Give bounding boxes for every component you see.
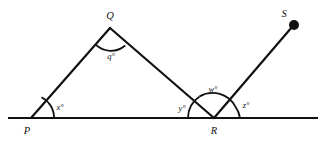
angle-label-y: y° (177, 103, 186, 113)
point-label-r: R (210, 125, 218, 136)
point-marker-s (289, 20, 299, 30)
angle-arc-w (200, 93, 236, 107)
geometry-figure: P Q R S x° q° y° w° z° (0, 0, 325, 151)
angle-arc-z (236, 107, 241, 118)
geometry-canvas: P Q R S x° q° y° w° z° (0, 0, 325, 151)
point-label-p: P (23, 125, 31, 136)
angle-arc-q (96, 45, 126, 51)
segment-pq (31, 28, 110, 118)
angle-label-q: q° (107, 51, 115, 61)
segment-rs (214, 27, 292, 118)
segment-qr (110, 28, 214, 118)
angle-label-z: z° (242, 100, 250, 110)
angle-label-w: w° (208, 84, 218, 94)
point-label-s: S (281, 8, 287, 19)
angle-label-x: x° (55, 102, 64, 112)
point-label-q: Q (106, 10, 114, 21)
